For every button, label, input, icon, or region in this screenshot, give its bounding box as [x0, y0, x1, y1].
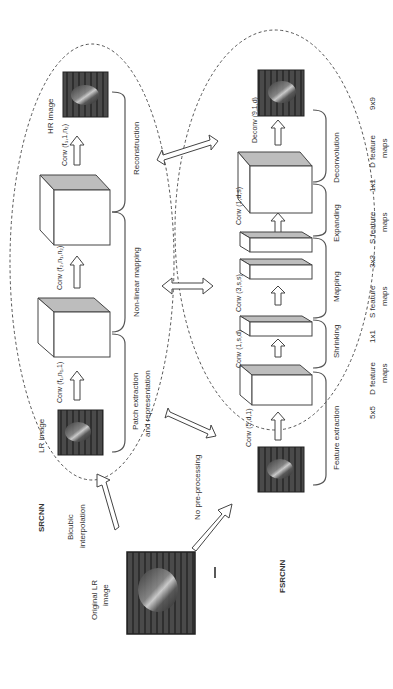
nonlinear-mapping-label: Non-linear mapping [132, 247, 141, 317]
fmap-label-d-1b: maps [380, 363, 389, 383]
interpolation-label: interpolation [78, 504, 87, 548]
fmap-label-d-4: D feature [368, 135, 377, 168]
srcnn-lr-image-label: LR image [37, 418, 46, 453]
fmap-label-s-2: S feature [368, 285, 377, 318]
arrow-up-icon [271, 120, 285, 145]
mapping-label: Mapping [332, 271, 341, 302]
brace-nonlinear-mapping [112, 212, 125, 332]
srcnn-conv2-label: Conv (f₂,n₁,n₂) [56, 246, 64, 290]
reconstruction-label: Reconstruction [132, 122, 141, 175]
srcnn-feature-cube-2 [40, 175, 110, 245]
kernel-label-1x1-b: 1x1 [368, 179, 377, 192]
double-arrow-icon [162, 278, 213, 294]
srcnn-conv3-label: Conv (f₃,1,n₂) [61, 124, 69, 166]
fsrcnn-feature-extraction-block [240, 365, 312, 405]
fmap-label-d-1: D feature [368, 362, 377, 395]
brace-patch-extraction [112, 334, 125, 452]
arrow-up-icon [70, 256, 84, 288]
no-preprocessing-label: No pre-processing [193, 455, 202, 520]
deconvolution-label: Deconvolution [332, 132, 341, 183]
fmap-label-d-4b: maps [380, 138, 389, 158]
arrow-up-icon [70, 136, 84, 165]
original-lr-label-2: image [101, 584, 110, 606]
fsrcnn-expanding-block [238, 152, 312, 213]
fsrcnn-lr-image [258, 447, 304, 492]
expanding-label: Expanding [332, 204, 341, 242]
fsrcnn-conv3-label: Conv (3,s,s) [235, 274, 243, 312]
fmap-label-s-2b: maps [380, 286, 389, 306]
shrinking-label: Shrinking [332, 325, 341, 358]
arrow-up-icon [271, 286, 285, 305]
double-arrow-icon [165, 408, 216, 438]
patch-extraction-label: Patch extraction [131, 373, 140, 430]
kernel-label-1x1-a: 1x1 [368, 330, 377, 343]
brace-shrinking [313, 320, 326, 368]
kernel-label-5x5: 5x5 [368, 406, 377, 419]
double-arrow-icon [157, 135, 218, 165]
original-lr-image [127, 552, 195, 634]
srcnn-feature-cube-1 [38, 298, 110, 357]
fsrcnn-shrinking-block [240, 316, 312, 336]
original-lr-label: Original LR [90, 580, 99, 620]
srcnn-title: SRCNN [37, 503, 46, 532]
fmap-label-s-3: S feature [368, 211, 377, 244]
srcnn-hr-image [63, 72, 108, 117]
fsrcnn-title: FSRCNN [278, 559, 287, 593]
feature-extraction-label: Feature extraction [332, 406, 341, 470]
fsrcnn-conv1-label: Conv (5,d,1) [245, 408, 253, 447]
fsrcnn-deconv-label: Deconv (9,1,d) [251, 97, 259, 143]
srcnn-hr-image-label: HR image [46, 98, 55, 134]
brace-reconstruction [112, 92, 125, 212]
srcnn-fsrcnn-diagram: HR image Conv (f₃,1,n₂) Conv (f₂,n₁,n₂) … [0, 0, 393, 689]
arrow-up-icon [271, 339, 285, 357]
fsrcnn-hr-image [258, 70, 304, 116]
kernel-label-9x9: 9x9 [368, 97, 377, 110]
arrow-up-icon [70, 371, 84, 400]
fsrcnn-mapping-block-1 [240, 259, 312, 279]
brace-mapping [313, 238, 326, 318]
bicubic-label: Bicubic [66, 514, 75, 540]
fsrcnn-mapping-block-2 [240, 232, 312, 252]
srcnn-conv1-label: Conv (f₁,n₁,1) [56, 362, 64, 403]
brace-deconvolution [313, 110, 326, 182]
bicubic-arrow-icon [97, 474, 119, 530]
patch-extraction-label-2: and representation [143, 370, 152, 437]
fsrcnn-conv4-label: Conv (1,d,s) [235, 187, 243, 225]
arrow-up-icon [271, 412, 285, 440]
fmap-label-s-3b: maps [380, 212, 389, 232]
brace-expanding [313, 184, 326, 236]
srcnn-lr-image [58, 410, 103, 455]
brace-feature-extraction [313, 372, 326, 485]
fsrcnn-conv2-label: Conv (1,s,d) [235, 330, 243, 368]
kernel-label-3x3: 3x3 [368, 255, 377, 268]
